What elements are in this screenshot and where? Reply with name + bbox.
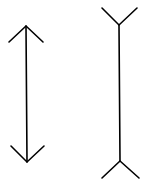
right-shaft: [119, 25, 120, 161]
right-bottom-fins: [102, 161, 139, 178]
left-shaft: [26, 26, 27, 162]
arrowheads-inward-figure: [9, 26, 44, 162]
right-top-fins: [102, 8, 137, 25]
muller-lyer-diagram: [0, 0, 148, 189]
fins-outward-figure: [102, 8, 139, 178]
